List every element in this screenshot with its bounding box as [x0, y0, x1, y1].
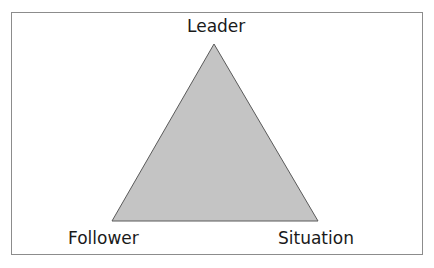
leadership-triangle: [0, 0, 434, 268]
vertex-label-leader: Leader: [187, 18, 245, 35]
vertex-label-follower: Follower: [68, 230, 139, 247]
vertex-label-situation: Situation: [278, 230, 354, 247]
triangle-shape: [112, 44, 318, 221]
